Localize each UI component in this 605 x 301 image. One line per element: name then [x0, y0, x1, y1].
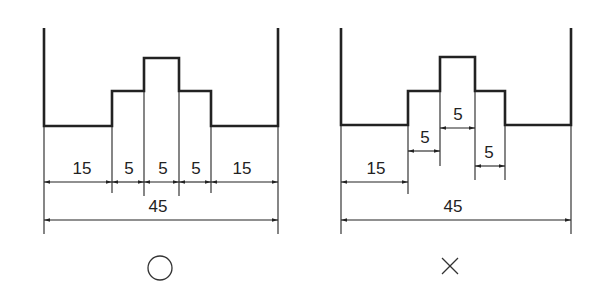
right-scattered-dimensions: 15 5 5 5 [341, 105, 505, 182]
left-overall-dimension: 45 [44, 197, 278, 220]
left-profile [44, 28, 278, 126]
overall-dim-label: 45 [149, 197, 168, 216]
dim-label: 5 [191, 159, 200, 178]
dim-label: 15 [73, 159, 92, 178]
correct-circle-icon [148, 256, 172, 280]
left-figure-correct: 15 5 5 5 15 45 [44, 28, 278, 280]
dimensioning-diagram: 15 5 5 5 15 45 15 5 5 [0, 0, 605, 301]
dim-label: 5 [453, 105, 462, 124]
dim-label: 15 [233, 159, 252, 178]
dim-label: 15 [367, 159, 386, 178]
overall-dim-label: 45 [444, 197, 463, 216]
right-overall-dimension: 45 [341, 197, 571, 220]
dim-label: 5 [124, 159, 133, 178]
dim-label: 5 [158, 159, 167, 178]
incorrect-cross-icon [442, 258, 458, 274]
right-figure-incorrect: 15 5 5 5 45 [341, 28, 571, 274]
left-chain-dimensions: 15 5 5 5 15 [44, 159, 278, 182]
dim-label: 5 [484, 143, 493, 162]
dim-label: 5 [420, 128, 429, 147]
